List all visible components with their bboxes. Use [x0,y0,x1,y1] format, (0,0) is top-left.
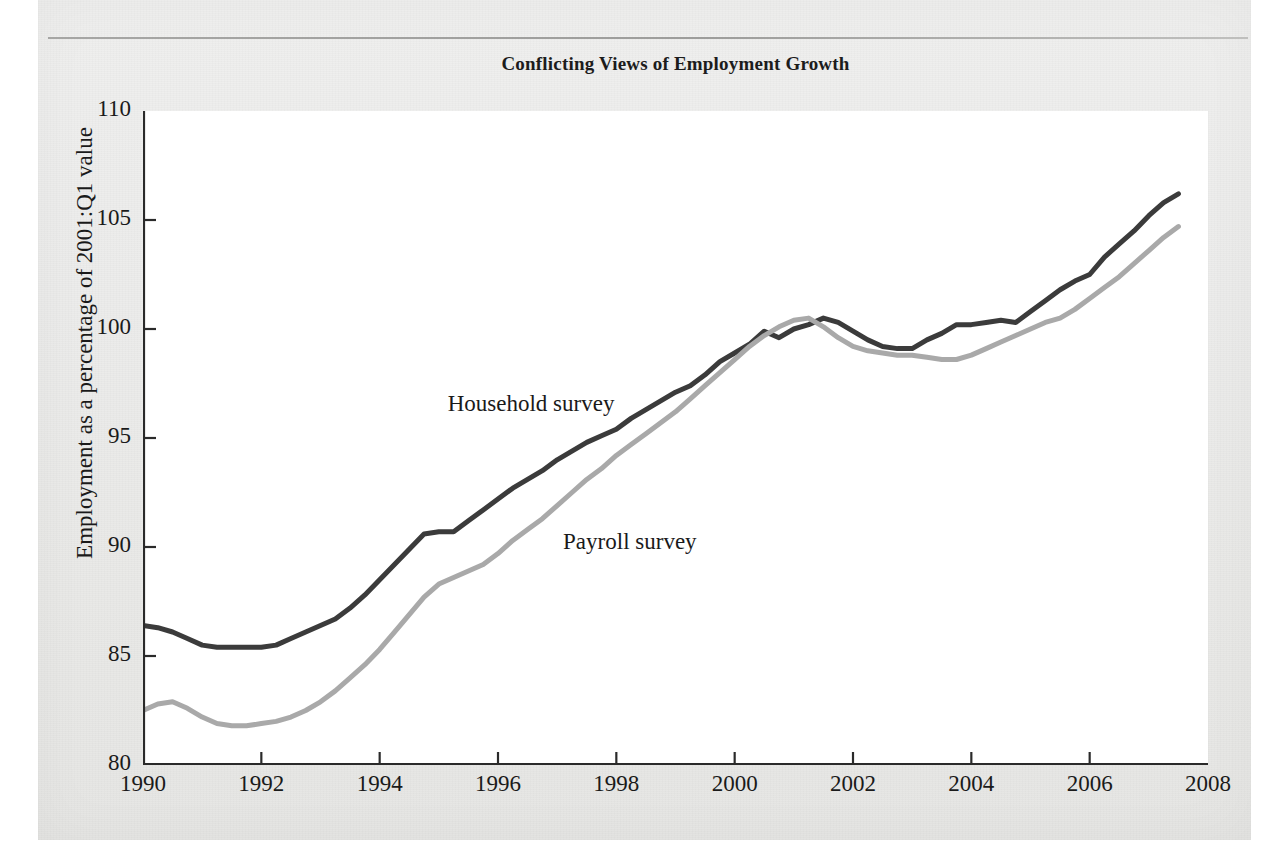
chart-svg [143,111,1208,765]
series-line-payroll-survey [143,227,1178,726]
y-axis-title: Employment as a percentage of 2001:Q1 va… [72,63,98,623]
x-tick-label: 2008 [1163,771,1253,797]
x-tick-label: 2006 [1045,771,1135,797]
x-tick-label: 1990 [98,771,188,797]
chart-title: Conflicting Views of Employment Growth [143,53,1208,75]
x-tick-label: 1992 [216,771,306,797]
axis-layer [143,111,1208,765]
x-tick-label: 2004 [926,771,1016,797]
x-tick-label: 2002 [808,771,898,797]
series-annotation-household-survey: Household survey [448,391,615,417]
series-annotation-payroll-survey: Payroll survey [563,529,697,555]
x-tick-label: 1996 [453,771,543,797]
x-tick-label: 2000 [690,771,780,797]
series-layer [143,194,1178,726]
plot-area [143,111,1208,765]
y-tick-label: 85 [67,641,131,667]
chart-page: Conflicting Views of Employment Growth 8… [0,0,1287,864]
page-top-rule [48,37,1248,39]
x-tick-label: 1994 [335,771,425,797]
x-tick-label: 1998 [571,771,661,797]
